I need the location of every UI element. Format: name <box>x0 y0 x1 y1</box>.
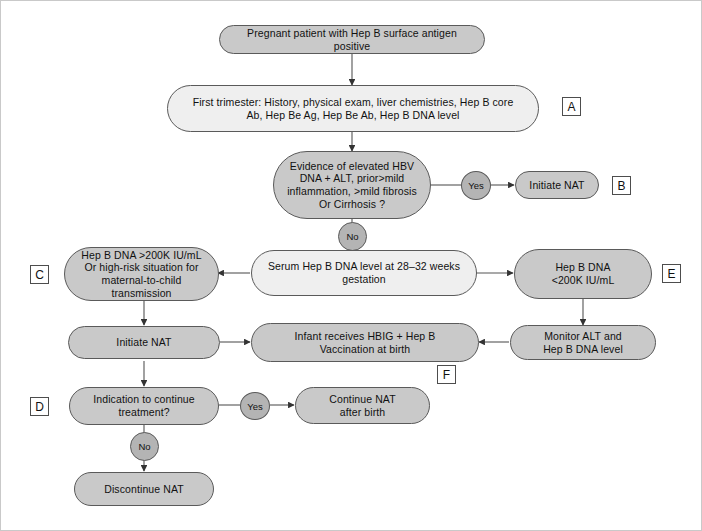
edge-label-indication-yes-text: Yes <box>247 401 263 412</box>
node-evidence-line-2: DNA + ALT, prior>mild <box>287 172 417 185</box>
node-monitor-line-2: Hep B DNA level <box>543 343 623 356</box>
edge-label-evidence-yes-text: Yes <box>468 180 484 191</box>
edge-label-indication-no-text: No <box>138 441 150 452</box>
node-infant-line-1: Infant receives HBIG + Hep B <box>295 330 436 343</box>
node-discontinue-nat[interactable]: Discontinue NAT <box>74 472 214 506</box>
tag-f-label: F <box>443 368 450 382</box>
node-evidence-line-1: Evidence of elevated HBV <box>287 160 417 173</box>
node-evidence-line-3: inflammation, >mild fibrosis <box>287 185 417 198</box>
node-initiate-nat-left-label: Initiate NAT <box>116 336 171 349</box>
node-high-dna-line-1: Hep B DNA >200K IU/mL <box>73 249 210 262</box>
node-low-dna-line-1: Hep B DNA <box>552 261 615 274</box>
flowchart-canvas: Pregnant patient with Hep B surface anti… <box>0 0 702 531</box>
tag-d: D <box>30 397 49 416</box>
node-serum-line-1: Serum Hep B DNA level at 28–32 weeks <box>268 260 460 273</box>
edge-label-indication-yes: Yes <box>240 392 270 420</box>
node-infant-hbig-vaccination[interactable]: Infant receives HBIG + Hep B Vaccination… <box>251 323 479 362</box>
node-high-dna-line-3: maternal-to-child transmission <box>73 274 210 299</box>
tag-e-label: E <box>667 267 675 281</box>
tag-a-label: A <box>567 100 575 114</box>
node-initiate-nat-left[interactable]: Initiate NAT <box>68 326 220 359</box>
node-evidence-line-4: Or Cirrhosis ? <box>287 198 417 211</box>
node-indication-to-continue-treatment[interactable]: Indication to continue treatment? <box>69 387 219 425</box>
tag-c: C <box>30 265 49 284</box>
tag-e: E <box>662 264 681 283</box>
node-infant-line-2: Vaccination at birth <box>295 343 436 356</box>
tag-f: F <box>437 365 456 384</box>
edge-label-evidence-yes: Yes <box>461 171 491 200</box>
node-first-trimester[interactable]: First trimester: History, physical exam,… <box>167 85 539 132</box>
node-serum-hep-b-dna-level[interactable]: Serum Hep B DNA level at 28–32 weeks ges… <box>251 250 477 296</box>
tag-c-label: C <box>35 268 44 282</box>
edge-label-evidence-no: No <box>338 222 367 251</box>
node-continue-nat-line-1: Continue NAT <box>329 393 395 406</box>
node-start[interactable]: Pregnant patient with Hep B surface anti… <box>219 25 485 54</box>
node-continue-nat-after-birth[interactable]: Continue NAT after birth <box>295 387 430 424</box>
tag-b: B <box>612 176 631 195</box>
node-first-trimester-line-1: First trimester: History, physical exam,… <box>193 96 514 109</box>
node-initiate-nat-b-label: Initiate NAT <box>529 179 584 192</box>
node-discontinue-nat-label: Discontinue NAT <box>104 483 184 496</box>
node-low-dna[interactable]: Hep B DNA <200K IU/mL <box>514 249 652 299</box>
edge-label-indication-no: No <box>130 432 159 461</box>
node-indication-line-1: Indication to continue <box>93 393 194 406</box>
node-start-line-1: Pregnant patient with Hep B surface anti… <box>228 27 476 52</box>
node-first-trimester-line-2: Ab, Hep Be Ag, Hep Be Ab, Hep B DNA leve… <box>193 109 514 122</box>
node-high-dna-line-2: Or high-risk situation for <box>73 261 210 274</box>
tag-b-label: B <box>617 179 625 193</box>
node-evidence-of-elevated-hbv[interactable]: Evidence of elevated HBV DNA + ALT, prio… <box>273 151 431 219</box>
node-indication-line-2: treatment? <box>93 406 194 419</box>
node-continue-nat-line-2: after birth <box>329 406 395 419</box>
edge-label-evidence-no-text: No <box>346 231 358 242</box>
node-monitor-line-1: Monitor ALT and <box>543 330 623 343</box>
tag-d-label: D <box>35 400 44 414</box>
tag-a: A <box>562 97 581 116</box>
node-high-dna-or-high-risk[interactable]: Hep B DNA >200K IU/mL Or high-risk situa… <box>64 247 219 301</box>
node-serum-line-2: gestation <box>268 273 460 286</box>
node-low-dna-line-2: <200K IU/mL <box>552 274 615 287</box>
node-initiate-nat-b[interactable]: Initiate NAT <box>515 171 599 199</box>
node-monitor-alt-dna[interactable]: Monitor ALT and Hep B DNA level <box>510 325 656 360</box>
